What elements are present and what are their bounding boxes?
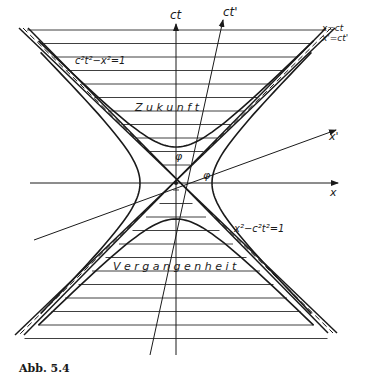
angle-label-ct: φ (175, 150, 183, 163)
future-region-label: Z u k u n f t (134, 101, 200, 114)
spacelike-hyperbola-label: x²−c²t²=1 (233, 223, 284, 234)
past-region-label: V e r g a n g e n h e i t (113, 260, 237, 273)
x-axis-label: x (329, 186, 337, 199)
ct-prime-axis-label: ct' (223, 5, 238, 19)
figure-caption: Abb. 5.4 (19, 362, 70, 375)
light-cone-label: x=ct (321, 23, 344, 33)
x-prime-axis-label: x' (328, 130, 339, 143)
ct-axis-label: ct (170, 8, 183, 22)
timelike-hyperbola-label: c²t²−x²=1 (75, 55, 125, 66)
origin-point (174, 181, 178, 185)
spacetime-diagram: ct ct' x x' x=ct x'=ct' c²t²−x²=1 x²−c²t… (0, 0, 368, 386)
angle-label-x: φ (203, 169, 211, 182)
light-cone-prime-label: x'=ct' (321, 33, 348, 43)
